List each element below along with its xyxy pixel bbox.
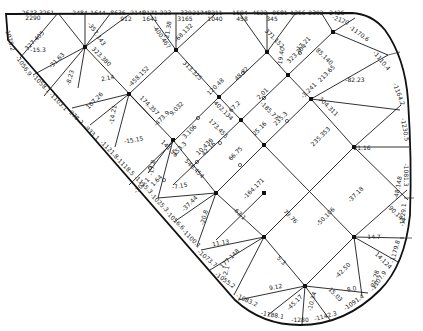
edge-label: 235.353 [309,125,332,148]
boundary-label: -1056.6 [165,210,186,231]
boundary-labels: -1078.2-1056.9-1058.1-1103.1-978.2-933.1… [4,13,411,323]
edge-label: 15.03 [327,286,344,303]
edge-label: 48.82 [233,65,250,82]
edge-label: -164.171 [241,176,265,200]
edge-label: 2290 [25,14,40,21]
edge-label: -82.23 [345,76,365,83]
edge-label: -8.23 [64,69,75,86]
edge-label: 1641 [142,15,157,22]
boundary-label: -1091.4 [342,292,365,311]
edge-label: 1256 [290,9,305,16]
boundary-label: -1025.3 [149,192,170,213]
boundary-label: -1129.1 [398,203,407,227]
edge-label: 5.3 [276,254,288,266]
edge-label: 546.454 [184,157,207,180]
edge-label: 345 [266,15,278,22]
boundary-label: -1280 [291,316,309,323]
edge-label: 21.16 [353,144,370,151]
edge-label: -31.63 [47,51,66,70]
boundary-label: -1058.1 [31,73,52,94]
edge-label: 9.12 [268,282,283,291]
edge-label: 107.26 [84,90,104,110]
edge-label: 458 [236,15,248,22]
edge-label: 912 [120,15,132,22]
edge-label: -14.21 [107,104,117,124]
edge-label: -63.1 [232,205,248,221]
edge-label: 21.38 [163,20,173,38]
edge-label: 313.325 [182,59,205,82]
edge-label: 2392 [308,9,323,16]
edge-label: -7.15 [171,181,188,191]
edge-label: 85.140 [315,46,335,66]
edge-label: -45.17 [285,293,304,312]
edge-label: -50.106 [315,205,336,226]
boundary-label: -933.1 [82,123,101,142]
edge-label: 9.032 [168,100,185,117]
edge-label: 1644 [90,9,105,16]
edge-label: -19.40 [275,46,285,66]
edge-label: -15.3 [30,46,46,53]
edge-label: -37.44 [180,194,199,213]
boundary-label: -1103.1 [48,91,69,112]
boundary-label: -1164.2 [392,82,407,106]
boundary-label: -1078.2 [4,27,17,51]
boundary-outline [6,13,411,325]
edge-label: 2484 [72,9,87,16]
edge-label: 213.65 [316,63,336,83]
edge-label: 67.2 [227,99,242,114]
edge-label: 14.7 [367,233,381,240]
edge-label: -357.143 [86,21,107,47]
edge-label: 304.311 [318,95,341,118]
edge-label: 11.13 [211,238,229,248]
boundary-label: -1073.7 [196,248,218,268]
edge-label: 3165 [177,15,192,22]
edge-label: 66.75 [227,145,244,162]
edge-label: 177.148 [218,247,241,270]
edge-label: 2.14 [100,73,115,82]
edge-label: 25.16 [251,120,268,137]
truss-diagram-canvas: 2673.3261229024841644863621452171.223339… [0,0,423,331]
edge-label: -37.18 [346,185,365,204]
edge-label: 3.106 [181,123,198,140]
boundary-label: -978.2 [66,107,85,126]
edge-label: -42.50 [333,261,352,280]
edge-label: 1040 [207,15,222,22]
edge-label: -48.148 [392,175,403,199]
edge-label: -17.8 [147,159,157,176]
boundary-label: -2120 [331,13,350,26]
edge-label: -15.15 [123,134,143,144]
edge-label: 174.357 [139,94,162,117]
edge-label: 173.455 [208,117,231,140]
boundary-label: -1081.3 [403,163,410,186]
edge-label: -458.152 [126,64,150,88]
edge-label: 2174 [192,9,207,16]
